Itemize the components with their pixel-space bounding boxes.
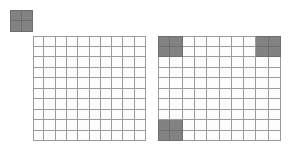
grid-cell	[232, 120, 244, 131]
grid-cell	[135, 57, 146, 68]
grid-cell	[207, 131, 219, 142]
grid-cell	[56, 47, 67, 58]
grid-cell	[195, 78, 207, 89]
grid-cell	[183, 68, 195, 79]
grid-cell	[112, 120, 123, 131]
grid-cell	[170, 131, 182, 142]
grid-cell	[220, 99, 232, 110]
grid-cell	[170, 110, 182, 121]
grid-cell	[123, 57, 134, 68]
unit-square-key	[10, 10, 33, 32]
grid-cell	[220, 110, 232, 121]
grid-cell	[44, 68, 55, 79]
grid-cell	[170, 68, 182, 79]
grid-cell	[112, 110, 123, 121]
grid-cell	[183, 131, 195, 142]
grid-cell	[220, 131, 232, 142]
grid-cell	[220, 120, 232, 131]
grid-cell	[269, 89, 281, 100]
grid-cell	[256, 110, 268, 121]
left-grid	[33, 36, 146, 141]
grid-cell	[78, 68, 89, 79]
grid-cell	[56, 57, 67, 68]
grid-cell	[220, 47, 232, 58]
grid-cell	[220, 68, 232, 79]
grid-cell	[101, 131, 112, 142]
grid-cell	[44, 57, 55, 68]
grid-cell	[158, 78, 170, 89]
grid-cell	[33, 57, 44, 68]
grid-cell	[67, 78, 78, 89]
grid-cell	[232, 99, 244, 110]
grid-cell	[269, 36, 281, 47]
grid-cell	[33, 131, 44, 142]
grid-cell	[269, 47, 281, 58]
grid-cell	[112, 131, 123, 142]
grid-cell	[256, 78, 268, 89]
grid-cell	[33, 36, 44, 47]
grid-cell	[183, 110, 195, 121]
grid-cell	[101, 57, 112, 68]
grid-cell	[232, 57, 244, 68]
grid-cell	[56, 68, 67, 79]
grid-cell	[44, 110, 55, 121]
grid-cell	[78, 78, 89, 89]
grid-cell	[112, 47, 123, 58]
grid-cell	[158, 120, 170, 131]
grid-cell	[90, 131, 101, 142]
grid-cell	[44, 78, 55, 89]
grid-cell	[183, 89, 195, 100]
grid-cell	[244, 68, 256, 79]
grid-cell	[183, 120, 195, 131]
grid-cell	[170, 99, 182, 110]
grid-cell	[112, 99, 123, 110]
grid-cell	[101, 68, 112, 79]
grid-cell	[56, 110, 67, 121]
grid-cell	[220, 89, 232, 100]
grid-cell	[170, 120, 182, 131]
grid-cell	[78, 89, 89, 100]
grid-cell	[195, 57, 207, 68]
grid-cell	[195, 131, 207, 142]
grid-cell	[33, 78, 44, 89]
grid-cell	[123, 47, 134, 58]
grid-cell	[232, 89, 244, 100]
grid-cell	[269, 78, 281, 89]
grid-cell	[158, 110, 170, 121]
grid-cell	[135, 99, 146, 110]
grid-cell	[195, 120, 207, 131]
grid-cell	[158, 99, 170, 110]
grid-cell	[195, 47, 207, 58]
grid-cell	[195, 36, 207, 47]
grid-cell	[33, 110, 44, 121]
grid-cell	[232, 110, 244, 121]
grid-cell	[256, 89, 268, 100]
grid-cell	[244, 99, 256, 110]
grid-cell	[101, 110, 112, 121]
grid-cell	[56, 120, 67, 131]
grid-cell	[135, 78, 146, 89]
grid-cell	[269, 131, 281, 142]
grid-cell	[220, 78, 232, 89]
grid-cell	[232, 36, 244, 47]
grid-cell	[123, 68, 134, 79]
grid-cell	[135, 36, 146, 47]
grid-cell	[244, 120, 256, 131]
grid-cell	[158, 57, 170, 68]
grid-cell	[135, 131, 146, 142]
grid-cell	[123, 131, 134, 142]
grid-cell	[232, 68, 244, 79]
grid-cell	[135, 89, 146, 100]
grid-cell	[158, 68, 170, 79]
grid-cell	[67, 131, 78, 142]
grid-cell	[269, 120, 281, 131]
grid-cell	[135, 120, 146, 131]
grid-cell	[195, 99, 207, 110]
grid-cell	[244, 89, 256, 100]
grid-cell	[269, 68, 281, 79]
grid-cell	[90, 57, 101, 68]
grid-cell	[170, 78, 182, 89]
grid-cell	[90, 47, 101, 58]
grid-cell	[183, 57, 195, 68]
grid-cell	[90, 68, 101, 79]
